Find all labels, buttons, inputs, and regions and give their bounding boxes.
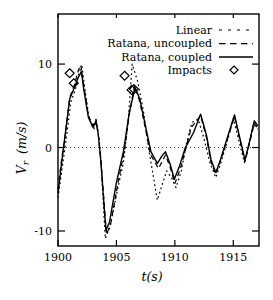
legend-label: Ratana, uncoupled xyxy=(107,37,212,50)
x-axis-label: t(s) xyxy=(141,269,162,284)
legend-label: Linear xyxy=(176,24,213,37)
y-tick-label: 0 xyxy=(45,142,52,155)
chart-canvas: 1900190519101915-10010 LinearRatana, unc… xyxy=(0,0,273,300)
x-tick-label: 1910 xyxy=(161,251,189,264)
legend-diamond-icon xyxy=(230,66,238,74)
impact-diamond-marker xyxy=(120,71,129,80)
y-tick-label: 10 xyxy=(38,58,52,71)
x-tick-label: 1915 xyxy=(219,251,247,264)
y-tick-label: -10 xyxy=(34,225,52,238)
tick-labels-group: 1900190519101915-10010 xyxy=(34,58,247,264)
impact-diamond-marker xyxy=(65,69,74,78)
x-tick-label: 1905 xyxy=(102,251,130,264)
series-group xyxy=(58,64,258,238)
figure: 1900190519101915-10010 LinearRatana, unc… xyxy=(0,0,273,300)
series-ratana-coupled-curve xyxy=(58,72,258,231)
impacts-markers-group xyxy=(65,69,138,95)
series-linear-curve xyxy=(58,64,258,238)
legend: LinearRatana, uncoupledRatana, coupledIm… xyxy=(107,24,253,78)
y-axis-label: Vr(m/s) xyxy=(14,122,31,175)
series-ratana-uncoupled-curve xyxy=(58,65,258,234)
x-tick-label: 1900 xyxy=(44,251,72,264)
legend-label: Ratana, coupled xyxy=(121,51,212,64)
legend-label: Impacts xyxy=(167,64,212,77)
axis-labels-group: t(s) Vr(m/s) xyxy=(14,122,163,284)
